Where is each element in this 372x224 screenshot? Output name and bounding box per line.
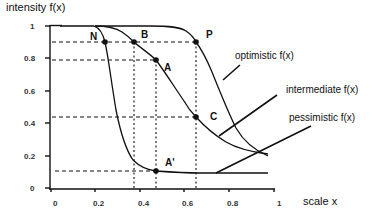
y-tick-label: 0.6 (24, 87, 36, 96)
label-N: N (90, 31, 97, 42)
point-labels: N B A P C A' (90, 29, 217, 168)
intermediate-leader-line (219, 95, 277, 136)
x-tick-labels: 0 0.2 0.4 0.6 0.8 1 (53, 199, 282, 208)
horizontal-reference-lines (52, 42, 196, 171)
label-A: A (164, 62, 171, 73)
pessimistic-curve (60, 26, 268, 173)
intensity-chart: intensity f(x) 1 0.8 0.6 0.4 0.2 0 0 0.2… (0, 0, 372, 224)
pessimistic-label: pessimistic f(x) (289, 112, 355, 123)
y-tick-label: 0.4 (24, 119, 36, 128)
x-tick-label: 0.8 (227, 199, 239, 208)
optimistic-label: optimistic f(x) (235, 50, 294, 61)
y-tick-label: 0.2 (24, 152, 36, 161)
point-C (193, 114, 199, 120)
label-C: C (210, 111, 217, 122)
optimistic-leader-line (223, 65, 240, 80)
point-B (131, 39, 137, 45)
x-tick-label: 0.6 (182, 199, 194, 208)
label-P: P (206, 29, 213, 40)
point-N (102, 39, 108, 45)
x-tick-label: 0.2 (93, 199, 105, 208)
x-tick-label: 1 (277, 199, 282, 208)
x-tick-label: 0 (53, 199, 58, 208)
y-tick-label: 0.8 (24, 54, 36, 63)
point-P (193, 39, 199, 45)
label-A-prime: A' (165, 157, 175, 168)
y-tick-labels: 1 0.8 0.6 0.4 0.2 0 (24, 22, 36, 193)
y-tick-label: 1 (30, 22, 35, 31)
marked-points (102, 39, 199, 174)
intermediate-curve (95, 26, 268, 154)
intermediate-label: intermediate f(x) (286, 84, 358, 95)
y-tick-label: 0 (30, 184, 35, 193)
x-tick-label: 0.4 (138, 199, 150, 208)
y-axis-title: intensity f(x) (6, 1, 65, 13)
pessimistic-leader-line (216, 126, 311, 173)
point-A (153, 57, 159, 63)
x-axis-title: scale x (303, 195, 338, 207)
point-A-prime (153, 168, 159, 174)
optimistic-curve (95, 26, 268, 156)
label-B: B (141, 29, 148, 40)
curves (60, 26, 268, 173)
